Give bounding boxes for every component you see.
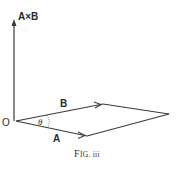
origin-label: O <box>2 117 10 128</box>
cross-product-arrowhead <box>12 19 17 26</box>
angle-arc <box>47 115 49 127</box>
vector-a-line <box>16 121 87 136</box>
parallelogram-edge-bottom <box>87 114 169 136</box>
cross-product-label: A×B <box>18 11 38 22</box>
caption-rest: IG. iii <box>80 150 100 159</box>
figure-caption: FIG. iii <box>74 148 100 159</box>
angle-theta-label: θ <box>38 117 43 127</box>
vector-a-label: A <box>53 133 60 144</box>
vector-b-label: B <box>60 98 67 109</box>
parallelogram-edge-top <box>103 104 169 114</box>
vector-cross-product-diagram: A×B O B A θ FIG. iii <box>0 0 181 170</box>
